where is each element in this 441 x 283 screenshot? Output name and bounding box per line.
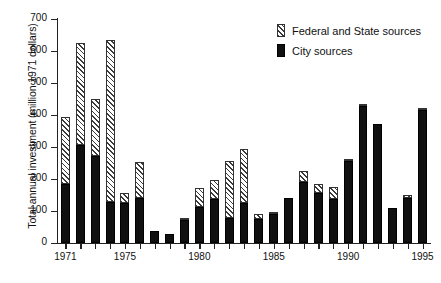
bar-segment-federal-state bbox=[120, 193, 129, 204]
y-tick bbox=[51, 83, 57, 84]
bar-segment-city bbox=[418, 110, 427, 243]
bar-1983 bbox=[240, 149, 249, 243]
y-tick-label: 700 bbox=[7, 12, 47, 23]
bar-segment-city bbox=[91, 156, 100, 243]
bar-segment-city bbox=[106, 202, 115, 243]
bar-segment-federal-state bbox=[329, 187, 338, 199]
x-tick bbox=[184, 244, 185, 249]
y-tick bbox=[51, 19, 57, 20]
x-tick-label: 1995 bbox=[403, 251, 441, 262]
bar-segment-city bbox=[344, 161, 353, 243]
x-tick bbox=[363, 244, 364, 249]
x-tick bbox=[378, 244, 379, 249]
bar-1993 bbox=[388, 208, 397, 243]
legend-item-federal-state: Federal and State sources bbox=[277, 24, 421, 37]
bar-segment-city bbox=[329, 199, 338, 243]
bar-chart: Total annual investment (million 1971 do… bbox=[0, 0, 441, 283]
x-tick bbox=[199, 244, 200, 249]
bar-1973 bbox=[91, 99, 100, 243]
bar-segment-city bbox=[388, 208, 397, 243]
x-tick bbox=[95, 244, 96, 249]
y-tick-label: 200 bbox=[7, 172, 47, 183]
legend-swatch-hatched-icon bbox=[277, 24, 285, 37]
bar-segment-city bbox=[225, 218, 234, 243]
x-tick bbox=[244, 244, 245, 249]
y-tick-label: 500 bbox=[7, 76, 47, 87]
bar-segment-federal-state bbox=[61, 117, 70, 184]
bar-segment-city bbox=[150, 231, 159, 243]
x-tick bbox=[318, 244, 319, 249]
x-tick bbox=[125, 244, 126, 249]
x-tick bbox=[214, 244, 215, 249]
bar-1981 bbox=[210, 180, 219, 243]
bar-segment-city bbox=[165, 234, 174, 243]
x-tick bbox=[393, 244, 394, 249]
y-tick-label: 0 bbox=[7, 236, 47, 247]
bar-segment-city bbox=[314, 193, 323, 243]
bar-segment-city bbox=[403, 198, 412, 243]
x-tick-label: 1990 bbox=[328, 251, 368, 262]
bar-segment-city bbox=[120, 203, 129, 243]
bar-1972 bbox=[76, 43, 85, 243]
legend-label-city: City sources bbox=[292, 45, 353, 57]
x-tick bbox=[229, 244, 230, 249]
y-tick bbox=[51, 51, 57, 52]
x-tick bbox=[170, 244, 171, 249]
bar-1976 bbox=[135, 162, 144, 243]
bar-1995 bbox=[418, 109, 427, 243]
bar-segment-city bbox=[359, 106, 368, 243]
bar-segment-federal-state bbox=[195, 188, 204, 206]
bar-segment-city bbox=[195, 207, 204, 243]
y-tick bbox=[51, 179, 57, 180]
bar-1982 bbox=[225, 161, 234, 243]
x-tick-label: 1980 bbox=[179, 251, 219, 262]
x-tick bbox=[259, 244, 260, 249]
bar-1975 bbox=[120, 193, 129, 243]
bar-segment-federal-state bbox=[106, 40, 115, 202]
bar-segment-city bbox=[373, 124, 382, 243]
y-tick-label: 600 bbox=[7, 44, 47, 55]
x-tick bbox=[65, 244, 66, 249]
x-tick-label: 1971 bbox=[45, 251, 85, 262]
x-tick-label: 1975 bbox=[105, 251, 145, 262]
bar-1986 bbox=[284, 198, 293, 243]
bar-segment-city bbox=[61, 184, 70, 243]
bar-segment-city bbox=[135, 198, 144, 243]
bar-1989 bbox=[329, 187, 338, 243]
legend: Federal and State sources City sources bbox=[277, 24, 421, 64]
legend-swatch-solid-icon bbox=[277, 44, 285, 57]
y-tick bbox=[51, 243, 57, 244]
bar-segment-federal-state bbox=[344, 159, 353, 161]
x-tick bbox=[333, 244, 334, 249]
bar-segment-federal-state bbox=[225, 161, 234, 218]
bar-1991 bbox=[359, 104, 368, 243]
x-tick bbox=[289, 244, 290, 249]
y-tick bbox=[51, 147, 57, 148]
bar-segment-federal-state bbox=[314, 184, 323, 193]
bar-segment-federal-state bbox=[135, 162, 144, 198]
bar-1977 bbox=[150, 231, 159, 243]
x-tick bbox=[155, 244, 156, 249]
bar-segment-federal-state bbox=[254, 214, 263, 219]
bar-segment-city bbox=[210, 199, 219, 243]
bar-1992 bbox=[373, 124, 382, 243]
bar-1984 bbox=[254, 214, 263, 243]
bar-segment-city bbox=[284, 198, 293, 243]
bar-segment-city bbox=[269, 214, 278, 243]
bar-1990 bbox=[344, 159, 353, 243]
bar-1988 bbox=[314, 183, 323, 243]
bar-1987 bbox=[299, 171, 308, 243]
y-tick bbox=[51, 211, 57, 212]
y-tick-label: 100 bbox=[7, 204, 47, 215]
bar-1979 bbox=[180, 219, 189, 243]
x-tick bbox=[274, 244, 275, 249]
x-tick bbox=[304, 244, 305, 249]
bar-segment-federal-state bbox=[240, 149, 249, 203]
bar-segment-federal-state bbox=[91, 99, 100, 156]
y-tick-label: 400 bbox=[7, 108, 47, 119]
x-tick bbox=[408, 244, 409, 249]
bar-1994 bbox=[403, 195, 412, 243]
bar-segment-federal-state bbox=[403, 195, 412, 198]
bar-segment-federal-state bbox=[359, 104, 368, 106]
bar-segment-federal-state bbox=[210, 180, 219, 200]
